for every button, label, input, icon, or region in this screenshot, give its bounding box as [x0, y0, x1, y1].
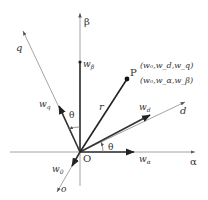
w-d-label: wd [139, 102, 151, 113]
theta-label-beta-q: θ [69, 110, 74, 120]
w-0-label: w0 [52, 164, 64, 175]
w-beta-point [78, 60, 81, 63]
theta-arc-beta-q [69, 127, 80, 129]
theta-arc-alpha-d [101, 142, 103, 152]
point-p [125, 77, 130, 82]
w-d-vector [80, 115, 150, 152]
d-axis-label: d [180, 105, 186, 116]
beta-axis-label: β [84, 16, 90, 27]
q-axis-label: q [16, 42, 22, 53]
w-beta-label: wβ [83, 59, 95, 71]
point-p-label: P [130, 67, 137, 78]
r-label: r [99, 101, 105, 112]
point-coords-ab: (w₀,w_α,w_β) [140, 76, 193, 85]
o-axis-label: o [61, 184, 67, 194]
w-q-label: wq [39, 99, 51, 111]
w-alpha-label: wα [139, 154, 151, 165]
theta-label-alpha-d: θ [108, 142, 113, 152]
origin-label: O [83, 153, 91, 164]
dq-transform-diagram: β α q d o O P (w₀,w_d,w_q) (w₀,w_α,w_β) … [0, 0, 208, 200]
w-0-vector [72, 152, 80, 166]
point-coords-dq: (w₀,w_d,w_q) [140, 61, 193, 70]
alpha-axis-label: α [190, 156, 197, 167]
